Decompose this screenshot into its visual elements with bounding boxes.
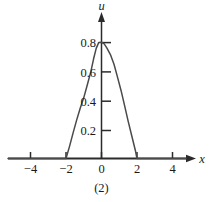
x-tick-label-4: 4 <box>169 162 176 176</box>
y-tick-label-0-4: 0.4 <box>80 95 96 109</box>
data-curve-u <box>8 42 186 158</box>
x-tick-label-zero: 0 <box>98 162 104 176</box>
y-tick-label-0-2: 0.2 <box>80 124 96 138</box>
x-axis-label: x <box>198 152 205 166</box>
chart-plot: 0.8 0.6 0.4 0.2 −4 −2 0 2 4 u x (2) <box>0 0 216 202</box>
y-axis-arrow-icon <box>98 12 105 22</box>
figure-container: 0.8 0.6 0.4 0.2 −4 −2 0 2 4 u x (2) <box>0 0 216 202</box>
y-tick-label-0-6: 0.6 <box>80 66 96 80</box>
x-tick-label-minus2: −2 <box>59 162 72 176</box>
x-tick-label-2: 2 <box>134 162 140 176</box>
y-tick-label-0-8: 0.8 <box>80 36 96 50</box>
figure-caption: (2) <box>94 181 109 195</box>
x-tick-label-minus4: −4 <box>24 162 38 176</box>
y-axis-label: u <box>98 0 104 13</box>
x-axis-arrow-icon <box>186 155 196 163</box>
